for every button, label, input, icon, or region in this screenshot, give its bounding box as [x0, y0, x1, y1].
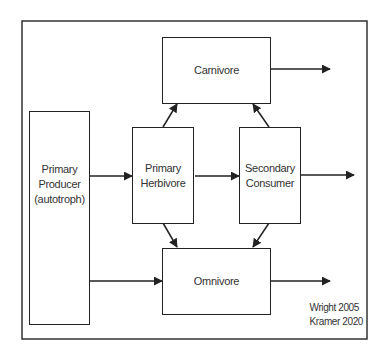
node-label: Primary Herbivore — [141, 161, 186, 191]
node-carnivore: Carnivore — [162, 37, 271, 104]
node-label: Omnivore — [194, 274, 239, 289]
citation-credit: Wright 2005 Kramer 2020 — [310, 301, 363, 329]
arrow-secondary-to-carnivore — [253, 104, 269, 127]
node-secondary-consumer: Secondary Consumer — [239, 127, 301, 224]
arrow-herbivore-to-omnivore — [163, 223, 177, 247]
arrow-secondary-to-omnivore — [253, 223, 269, 247]
arrow-herbivore-to-carnivore — [163, 104, 177, 127]
node-primary-herbivore: Primary Herbivore — [132, 127, 194, 224]
node-omnivore: Omnivore — [162, 248, 271, 315]
node-label: Carnivore — [194, 63, 239, 78]
node-label: Secondary Consumer — [245, 161, 295, 191]
node-label: Primary Producer (autotroph) — [34, 162, 85, 207]
node-primary-producer: Primary Producer (autotroph) — [29, 111, 90, 325]
